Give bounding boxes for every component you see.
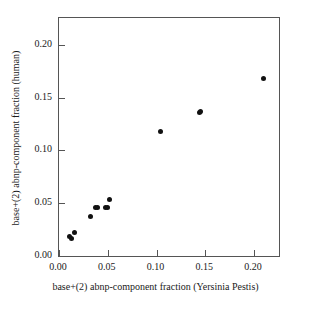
x-axis-ticklabel: 0.15 (184, 261, 224, 273)
data-point (95, 205, 100, 210)
data-point (105, 205, 110, 210)
data-point-layer (59, 18, 279, 256)
data-point (261, 76, 266, 81)
y-axis-title: base+(2) abnp-component fraction (human) (9, 18, 23, 258)
data-point (72, 230, 77, 235)
y-axis-tick (59, 256, 65, 257)
x-axis-title: base+(2) abnp-component fraction (Yersin… (0, 280, 311, 293)
data-point (158, 129, 163, 134)
data-point (69, 236, 74, 241)
x-axis-ticklabel: 0.10 (136, 261, 176, 273)
data-point (198, 109, 203, 114)
x-axis-ticklabel: 0.20 (233, 261, 273, 273)
data-point (107, 197, 112, 202)
y-axis-title-wrapper: base+(2) abnp-component fraction (human) (9, 18, 23, 258)
data-point (88, 214, 93, 219)
x-axis-ticklabel: 0.05 (87, 261, 127, 273)
scatter-plot-figure: 0.000.050.100.150.20 0.000.050.100.150.2… (0, 0, 311, 311)
plot-frame (58, 17, 280, 257)
x-axis-ticklabel: 0.00 (38, 261, 78, 273)
